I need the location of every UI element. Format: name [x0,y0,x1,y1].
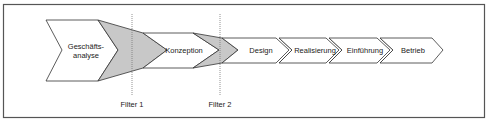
phase-label-geschaeftsanalyse-1: Geschäfts- [68,42,105,51]
filter-2-label: Filter 2 [209,100,232,109]
phase-label-design: Design [249,46,272,55]
phase-label-geschaeftsanalyse-2: analyse [73,51,99,60]
phase-label-realisierung: Realisierung [294,46,336,55]
process-diagram: Geschäfts- analyse Konzeption Design Rea… [0,0,491,124]
phase-label-betrieb: Betrieb [401,46,425,55]
phase-label-einfuehrung: Einführung [347,46,383,55]
phase-label-konzeption: Konzeption [165,46,203,55]
filter-1-label: Filter 1 [121,100,144,109]
